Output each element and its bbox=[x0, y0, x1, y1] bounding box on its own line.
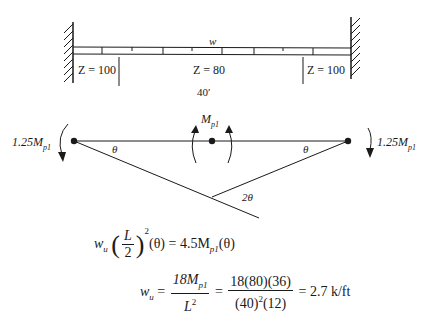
angle-label-left: θ bbox=[112, 143, 118, 155]
span-label: 40′ bbox=[197, 86, 210, 98]
eq1-rhs: (θ) = 4.5M bbox=[149, 236, 210, 251]
eq1-exponent: 2 bbox=[144, 226, 149, 236]
beam bbox=[73, 47, 351, 55]
eq1-frac-den: 2 bbox=[122, 245, 134, 261]
eq1-paren-open: ( bbox=[111, 230, 120, 259]
eq2-fraction-1: 18Mp1L2 bbox=[171, 272, 210, 314]
angle-label-right: θ bbox=[303, 143, 309, 155]
equation-work: wu (L2)2(θ) = 4.5Mp1(θ) bbox=[94, 226, 235, 261]
right-moment-label: 1.25Mp1 bbox=[377, 135, 416, 152]
eq2-wu-sub: u bbox=[149, 292, 154, 302]
eq1-frac-num: L bbox=[122, 228, 134, 245]
eq1-rhs-sub: p1 bbox=[210, 244, 219, 254]
eq1-fraction: L2 bbox=[122, 228, 134, 261]
left-moment-arrow-icon bbox=[58, 124, 68, 162]
eq2-frac1-num: 18Mp1 bbox=[171, 272, 210, 294]
angle-label-apex: 2θ bbox=[242, 191, 254, 203]
hinge-right bbox=[345, 138, 351, 144]
left-fixed-support bbox=[64, 22, 73, 83]
eq1-wu-sub: u bbox=[103, 244, 108, 254]
eq2-wu: w bbox=[140, 284, 149, 299]
equation-result: wu = 18Mp1L2 = 18(80)(36)(40)2(12) = 2.7… bbox=[140, 272, 350, 314]
eq2-frac1-den: L2 bbox=[171, 294, 210, 315]
left-moment-label: 1.25Mp1 bbox=[12, 135, 51, 152]
segment-label-left: Z = 100 bbox=[78, 63, 116, 77]
load-label: w bbox=[209, 35, 217, 47]
eq2-fraction-2: 18(80)(36)(40)2(12) bbox=[228, 274, 293, 312]
right-fixed-support bbox=[351, 17, 360, 79]
eq2-equals: = bbox=[157, 284, 165, 299]
eq2-result: = 2.7 k/ft bbox=[298, 284, 350, 299]
segment-label-right: Z = 100 bbox=[307, 63, 345, 77]
eq2-frac2-den: (40)2(12) bbox=[228, 291, 293, 312]
center-moment-label: Mp1 bbox=[200, 112, 219, 129]
hinge-center bbox=[209, 138, 215, 144]
eq1-theta: (θ) bbox=[219, 236, 235, 251]
eq1-wu: w bbox=[94, 236, 103, 251]
eq2-frac2-num: 18(80)(36) bbox=[228, 274, 293, 291]
right-moment-arrow-icon bbox=[366, 128, 374, 158]
hinge-left bbox=[71, 138, 77, 144]
eq2-equals-2: = bbox=[215, 284, 223, 299]
segment-label-middle: Z = 80 bbox=[193, 63, 225, 77]
